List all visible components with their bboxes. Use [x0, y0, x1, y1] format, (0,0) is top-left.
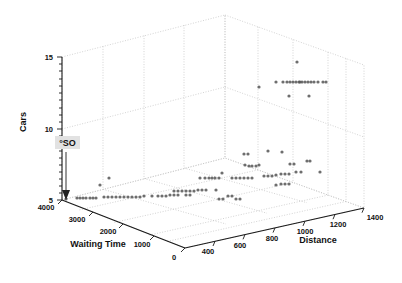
scatter-point: [88, 196, 91, 199]
scatter-point: [309, 80, 312, 83]
scatter-point: [118, 195, 121, 198]
floor-gridline-wt-3000: [103, 189, 226, 224]
scatter-point: [287, 172, 290, 175]
plot-box-frame: [62, 15, 364, 248]
floor-gridline-d-800: [114, 183, 293, 223]
annotation-label-text: °SO: [59, 138, 76, 148]
scatter-point: [305, 159, 308, 162]
scatter-point: [300, 80, 303, 83]
scatter-point: [81, 196, 84, 199]
scatter-point: [257, 85, 260, 88]
scatter-point: [287, 182, 290, 185]
scatter-point: [91, 196, 94, 199]
scatter-point: [226, 194, 229, 197]
scatter-point: [287, 94, 290, 97]
x-tick-label-3000: 3000: [69, 215, 86, 224]
scatter-point: [221, 197, 224, 200]
scatter-point: [192, 189, 195, 192]
z-tick-label-15: 15: [45, 53, 53, 62]
scatter-point: [266, 149, 269, 152]
scatter-points-layer: [64, 60, 327, 200]
right-back-wall: [225, 15, 364, 208]
scatter-point: [234, 176, 237, 179]
scatter-point: [294, 80, 297, 83]
y-tick-label-1200: 1200: [330, 220, 347, 229]
scatter-point: [294, 170, 297, 173]
scatter-point: [250, 164, 253, 167]
scatter-point: [98, 183, 101, 186]
scatter-point: [106, 195, 109, 198]
scatter-point: [220, 171, 223, 174]
x-tick-3000: [89, 212, 93, 216]
scatter-point: [238, 176, 241, 179]
scatter-point: [142, 194, 145, 197]
z-tick-label-10: 10: [45, 125, 53, 134]
scatter-point: [107, 176, 110, 179]
scatter-point: [78, 196, 81, 199]
scatter-point: [134, 195, 137, 198]
scatter-point: [247, 164, 250, 167]
scatter-point: [138, 195, 141, 198]
scatter-point: [180, 189, 183, 192]
scatter-point: [242, 152, 245, 155]
x-tick-1000: [150, 236, 154, 240]
scatter-point: [283, 182, 286, 185]
scatter-point: [75, 196, 78, 199]
scatter-point: [246, 176, 249, 179]
left-back-wall: [62, 15, 225, 200]
scatter-point: [274, 183, 277, 186]
scatter-point: [281, 80, 284, 83]
annotation-so: °SO: [55, 136, 80, 200]
scatter-point: [280, 150, 283, 153]
scatter-point: [321, 80, 324, 83]
scatter-point: [246, 152, 249, 155]
scatter-point: [274, 173, 277, 176]
scatter-point: [84, 196, 87, 199]
scatter-point: [110, 195, 113, 198]
scatter-point: [210, 176, 213, 179]
scatter-point: [214, 188, 217, 191]
scatter-point: [318, 170, 321, 173]
scatter-point: [279, 172, 282, 175]
plot-canvas: 5 10 15 Cars 4000 3000 2000 1000 0 Waiti…: [0, 0, 402, 283]
scatter-point: [172, 189, 175, 192]
scatter-plot-figure: 5 10 15 Cars 4000 3000 2000 1000 0 Waiti…: [0, 0, 402, 283]
scatter-point: [257, 163, 260, 166]
scatter-point: [306, 80, 309, 83]
x-tick-label-2000: 2000: [100, 227, 117, 236]
scatter-point: [126, 195, 129, 198]
scatter-point: [285, 80, 288, 83]
scatter-point: [160, 194, 163, 197]
y-tick-label-600: 600: [234, 241, 247, 250]
scatter-point: [242, 176, 245, 179]
scatter-point: [238, 197, 241, 200]
scatter-point: [295, 60, 298, 63]
axis-lines: [62, 57, 364, 248]
scatter-point: [230, 176, 233, 179]
x-tick-2000: [119, 224, 123, 228]
scatter-point: [274, 80, 277, 83]
scatter-point: [130, 195, 133, 198]
scatter-point: [188, 193, 191, 196]
scatter-point: [184, 193, 187, 196]
scatter-point: [288, 80, 291, 83]
gridline-right-wall-cars-10: [225, 87, 364, 137]
scatter-point: [266, 174, 269, 177]
scatter-point: [213, 176, 216, 179]
x-tick-label-1000: 1000: [134, 240, 151, 249]
scatter-point: [114, 195, 117, 198]
scatter-point: [307, 94, 310, 97]
scatter-point: [168, 193, 171, 196]
x-tick-label-0: 0: [172, 253, 176, 262]
y-tick-label-800: 800: [266, 234, 279, 243]
scatter-point: [299, 170, 302, 173]
scatter-point: [230, 194, 233, 197]
scatter-point: [312, 80, 315, 83]
scatter-point: [279, 182, 282, 185]
scatter-point: [198, 176, 201, 179]
scatter-point: [203, 176, 206, 179]
y-tick-label-400: 400: [202, 247, 215, 256]
scatter-point: [316, 80, 319, 83]
scatter-point: [243, 163, 246, 166]
scatter-point: [308, 159, 311, 162]
